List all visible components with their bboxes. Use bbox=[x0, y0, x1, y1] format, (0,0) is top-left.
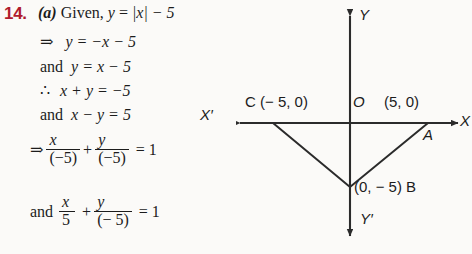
step-line-2: and y = x − 5 bbox=[40, 59, 131, 75]
point-label-5-0: (5, 0) bbox=[384, 93, 419, 110]
given-line: (a) Given, y = |x| − 5 bbox=[38, 5, 175, 21]
solution-text-column: 14. (a) Given, y = |x| − 5 ⇒ y = −x − 5 … bbox=[0, 0, 236, 254]
given-lhs: y bbox=[108, 4, 115, 21]
and-word-1: and bbox=[40, 58, 63, 75]
axis-label-x-negative: X′ bbox=[200, 106, 213, 123]
given-rhs: |x| − 5 bbox=[132, 4, 175, 21]
and-word-3: and bbox=[30, 203, 53, 221]
fraction-denominator: (−5) bbox=[46, 148, 80, 166]
step-expression-1: y = −x − 5 bbox=[65, 33, 136, 50]
question-part-label: (a) bbox=[38, 4, 57, 21]
step-line-3: ∴ x + y = −5 bbox=[40, 83, 131, 99]
step-expression-4: x − y = 5 bbox=[71, 106, 131, 123]
fraction-denominator: (− 5) bbox=[94, 210, 132, 228]
fraction-denominator: 5 bbox=[59, 210, 73, 228]
step-line-4: and x − y = 5 bbox=[40, 107, 131, 123]
and-word-2: and bbox=[40, 106, 63, 123]
fraction-y-over-neg5: y (−5) bbox=[95, 132, 129, 167]
fraction-x-over-neg5: x (−5) bbox=[46, 132, 80, 167]
fraction-y-over-neg5-b: y (− 5) bbox=[94, 194, 132, 229]
given-word: Given, bbox=[61, 4, 104, 21]
fraction-denominator: (−5) bbox=[95, 148, 129, 166]
origin-label: O bbox=[353, 93, 365, 110]
therefore-symbol: ∴ bbox=[40, 82, 50, 99]
equals-one-1: = 1 bbox=[136, 141, 157, 159]
plus-sign-2: + bbox=[82, 203, 91, 221]
axis-label-y-positive: Y bbox=[359, 6, 369, 23]
fraction-numerator: y bbox=[94, 193, 107, 211]
step-line-1: ⇒ y = −x − 5 bbox=[40, 34, 136, 50]
equals-one-2: = 1 bbox=[139, 203, 160, 221]
point-label-b: (0, − 5) B bbox=[354, 178, 416, 195]
question-number: 14. bbox=[4, 4, 27, 24]
implies-symbol-2: ⇒ bbox=[30, 140, 43, 159]
axis-label-x-positive: X bbox=[460, 112, 470, 129]
fraction-numerator: x bbox=[59, 193, 72, 211]
fraction-numerator: x bbox=[46, 131, 59, 149]
implies-symbol-1: ⇒ bbox=[40, 33, 53, 50]
fraction-numerator: y bbox=[95, 131, 108, 149]
given-equals: = bbox=[119, 4, 128, 21]
plus-sign-1: + bbox=[83, 141, 92, 159]
worked-solution-page: 14. (a) Given, y = |x| − 5 ⇒ y = −x − 5 … bbox=[0, 0, 472, 254]
axis-label-y-negative: Y′ bbox=[360, 210, 373, 227]
intercept-equation-1: ⇒ x (−5) + y (−5) = 1 bbox=[30, 132, 157, 167]
intercept-equation-2: and x 5 + y (− 5) = 1 bbox=[30, 194, 160, 229]
graph-svg bbox=[236, 0, 472, 254]
point-label-a: A bbox=[423, 126, 433, 143]
point-label-c: C (− 5, 0) bbox=[245, 93, 308, 110]
coordinate-graph: Y Y′ X X′ O C (− 5, 0) (5, 0) A (0, − 5)… bbox=[236, 0, 472, 254]
fraction-x-over-5: x 5 bbox=[59, 194, 75, 229]
step-expression-3: x + y = −5 bbox=[60, 82, 131, 99]
step-expression-2: y = x − 5 bbox=[71, 58, 131, 75]
